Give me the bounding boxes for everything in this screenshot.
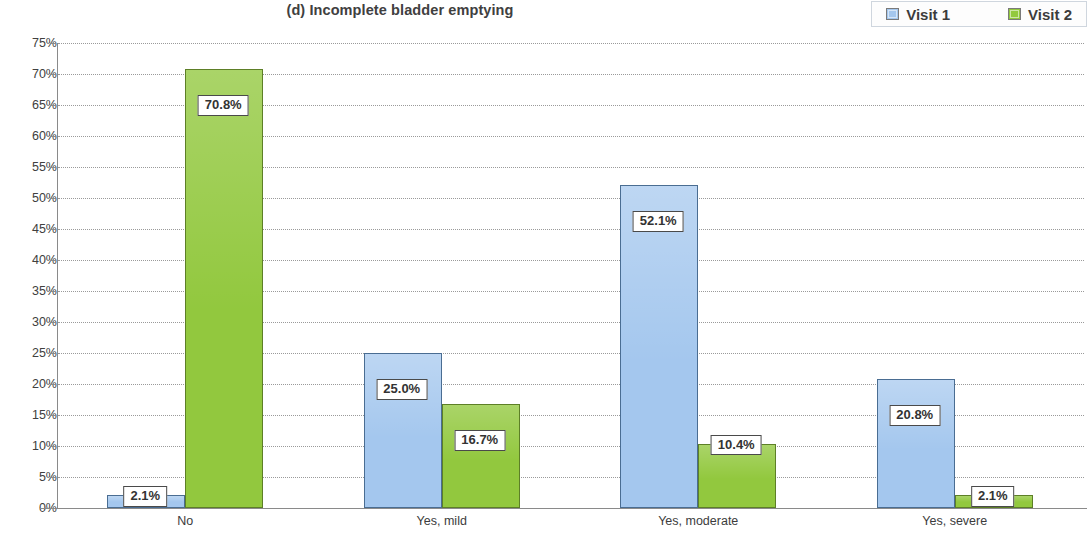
x-axis-category-label: Yes, severe — [922, 514, 987, 528]
bar-fill — [365, 354, 441, 507]
y-axis-tick-mark — [50, 167, 56, 168]
data-label-visit1-2: 25.0% — [376, 379, 427, 400]
bar-visit2-1[interactable] — [185, 69, 263, 508]
legend-item-visit-1[interactable]: Visit 1 — [886, 6, 950, 23]
legend-label-visit-2: Visit 2 — [1028, 6, 1072, 23]
y-axis-tick-mark — [50, 229, 56, 230]
bar-visit1-3[interactable] — [620, 185, 698, 508]
data-label-visit2-1: 70.8% — [198, 95, 249, 116]
data-label-visit1-1: 2.1% — [123, 486, 167, 507]
y-axis-tick-mark — [50, 322, 56, 323]
y-axis-tick-mark — [50, 446, 56, 447]
data-label-visit1-4: 20.8% — [889, 405, 940, 426]
x-axis-category-label: Yes, mild — [417, 514, 467, 528]
y-axis-tick-mark — [50, 415, 56, 416]
bar-visit1-2[interactable] — [364, 353, 442, 508]
legend-label-visit-1: Visit 1 — [906, 6, 950, 23]
y-axis-tick-mark — [50, 477, 56, 478]
gridline — [58, 43, 1084, 44]
legend-swatch-icon-visit-2 — [1008, 8, 1021, 20]
y-axis-tick-mark — [50, 291, 56, 292]
page-title: (d) Incomplete bladder emptying — [0, 2, 800, 18]
y-axis-tick-mark — [50, 384, 56, 385]
bar-fill — [186, 70, 262, 507]
y-axis-tick-mark — [50, 43, 56, 44]
y-axis: 0%5%10%15%20%25%30%35%40%45%50%55%60%65%… — [0, 0, 57, 536]
y-axis-tick-mark — [50, 136, 56, 137]
legend-swatch-icon-visit-1 — [886, 8, 899, 20]
bar-fill — [621, 186, 697, 507]
data-label-visit2-4: 2.1% — [971, 486, 1015, 507]
y-axis-tick-mark — [50, 260, 56, 261]
bar-fill — [878, 380, 954, 507]
data-label-visit2-2: 16.7% — [454, 430, 505, 451]
bar-visit1-4[interactable] — [877, 379, 955, 508]
y-axis-tick-mark — [50, 74, 56, 75]
y-axis-tick-mark — [50, 105, 56, 106]
chart-legend: Visit 1 Visit 2 — [871, 1, 1087, 27]
x-axis-line — [40, 508, 1087, 509]
y-axis-tick-mark — [50, 353, 56, 354]
bar-fill — [443, 405, 519, 507]
legend-item-visit-2[interactable]: Visit 2 — [1008, 6, 1072, 23]
x-axis-category-label: No — [177, 514, 193, 528]
bar-visit2-2[interactable] — [442, 404, 520, 508]
data-label-visit2-3: 10.4% — [711, 435, 762, 456]
data-label-visit1-3: 52.1% — [633, 211, 684, 232]
x-axis-category-label: Yes, moderate — [658, 514, 738, 528]
y-axis-tick-mark — [50, 198, 56, 199]
